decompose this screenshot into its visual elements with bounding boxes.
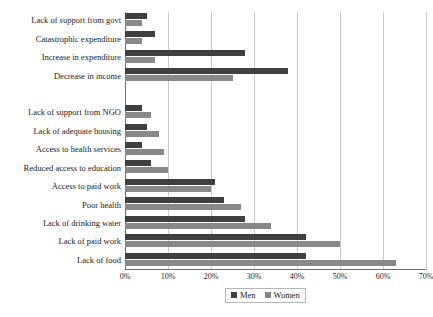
bar-row xyxy=(125,159,426,177)
x-tick-label: 60% xyxy=(376,272,391,281)
bar-women xyxy=(125,204,241,210)
bar-women xyxy=(125,241,340,247)
bar-women xyxy=(125,20,142,26)
bar-men xyxy=(125,124,147,130)
bar-row xyxy=(125,12,426,30)
category-label: Increase in expenditure xyxy=(42,53,121,62)
category-label: Lack of support from govt xyxy=(31,16,121,25)
x-tick-label: 70% xyxy=(419,272,433,281)
bar-chart: Lack of support from govtCatastrophic ex… xyxy=(0,0,433,317)
category-axis-labels: Lack of support from govtCatastrophic ex… xyxy=(0,12,121,270)
bar-row xyxy=(125,49,426,67)
bar-rows xyxy=(125,12,426,270)
category-label: Access to paid work xyxy=(52,182,121,191)
x-tick-label: 20% xyxy=(204,272,219,281)
bar-women xyxy=(125,260,396,266)
legend-label-men: Men xyxy=(240,290,256,300)
bar-men xyxy=(125,13,147,19)
bar-men xyxy=(125,142,142,148)
chart-legend: Men Women xyxy=(225,288,306,303)
bar-men xyxy=(125,234,306,240)
bar-women xyxy=(125,149,164,155)
x-tick-label: 40% xyxy=(290,272,305,281)
legend-item-men: Men xyxy=(231,290,256,300)
category-label: Lack of food xyxy=(77,256,121,265)
x-tick-label: 10% xyxy=(161,272,176,281)
category-label: Reduced access to education xyxy=(24,164,121,173)
category-label: Lack of drinking water xyxy=(43,219,121,228)
bar-row xyxy=(125,252,426,270)
bar-women xyxy=(125,186,211,192)
bar-men xyxy=(125,68,288,74)
bar-row xyxy=(125,104,426,122)
bar-row xyxy=(125,30,426,48)
category-label: Lack of adequate housing xyxy=(33,127,121,136)
bar-row xyxy=(125,196,426,214)
legend-label-women: Women xyxy=(274,290,300,300)
category-label: Poor health xyxy=(82,201,121,210)
bar-row xyxy=(125,141,426,159)
bar-men xyxy=(125,216,245,222)
x-tick-label: 30% xyxy=(247,272,262,281)
legend-swatch-women-icon xyxy=(265,292,271,298)
legend-item-women: Women xyxy=(265,290,300,300)
bar-row xyxy=(125,86,426,104)
bar-row xyxy=(125,67,426,85)
bar-row xyxy=(125,215,426,233)
bar-women xyxy=(125,112,151,118)
bar-men xyxy=(125,50,245,56)
bar-men xyxy=(125,31,155,37)
bar-women xyxy=(125,38,142,44)
category-label: Access to health services xyxy=(36,145,121,154)
bar-women xyxy=(125,57,155,63)
bar-women xyxy=(125,167,168,173)
x-axis-tick-labels: 0%10%20%30%40%50%60%70% xyxy=(125,272,426,286)
bar-women xyxy=(125,223,271,229)
legend-swatch-men-icon xyxy=(231,292,237,298)
bar-row xyxy=(125,123,426,141)
x-tick-label: 50% xyxy=(333,272,348,281)
x-axis-line xyxy=(125,269,426,270)
bar-men xyxy=(125,179,215,185)
x-tick-label: 0% xyxy=(120,272,131,281)
category-label: Catastrophic expenditure xyxy=(36,35,121,44)
bar-men xyxy=(125,197,224,203)
bar-women xyxy=(125,131,159,137)
bar-men xyxy=(125,105,142,111)
bar-row xyxy=(125,178,426,196)
bar-row xyxy=(125,233,426,251)
bar-women xyxy=(125,75,233,81)
bar-men xyxy=(125,253,306,259)
category-label: Decrease in income xyxy=(54,72,121,81)
plot-area xyxy=(125,12,426,270)
gridline xyxy=(426,12,427,270)
category-label: Lack of support from NGO xyxy=(28,108,121,117)
bar-men xyxy=(125,160,151,166)
category-label: Lack of paid work xyxy=(58,237,121,246)
